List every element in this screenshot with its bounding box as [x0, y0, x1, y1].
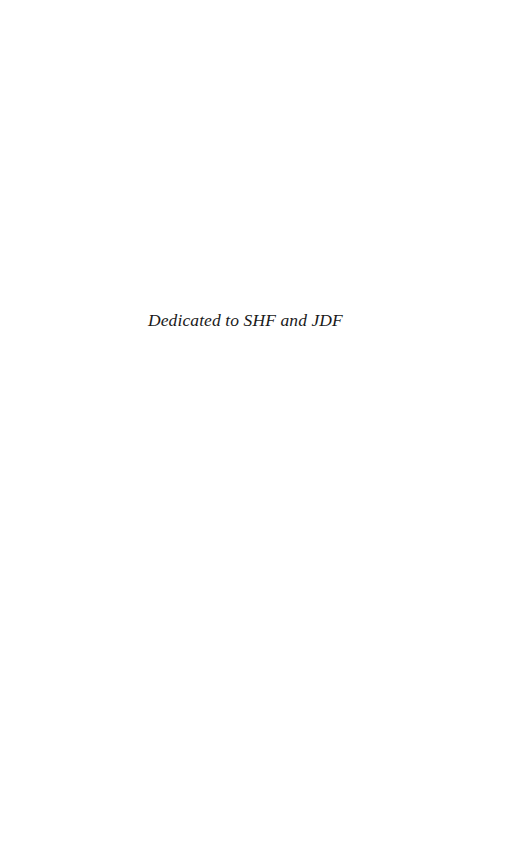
dedication-text: Dedicated to SHF and JDF [148, 309, 343, 331]
book-page: Dedicated to SHF and JDF [0, 0, 520, 861]
